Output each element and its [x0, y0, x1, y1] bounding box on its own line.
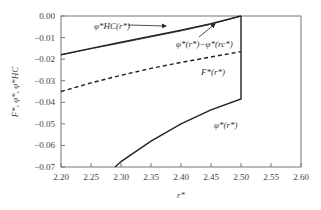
y-tick-label: −0.07	[34, 162, 55, 172]
x-tick-label: 2.25	[83, 172, 99, 182]
x-tick-label: 2.35	[143, 172, 159, 182]
y-tick-label: −0.06	[34, 140, 55, 150]
y-tick-label: −0.05	[34, 119, 55, 129]
x-axis-title: r*	[177, 190, 186, 200]
y-tick-label: −0.02	[34, 54, 55, 64]
y-tick-label: 0.00	[39, 11, 55, 21]
chart: 2.202.252.302.352.402.452.502.552.60 0.0…	[0, 0, 321, 210]
x-tick-label: 2.40	[173, 172, 189, 182]
y-tick-label: −0.01	[34, 33, 55, 43]
annotation-phi-hc: φ*HC(r*)	[94, 21, 130, 31]
y-tick-label: −0.04	[34, 97, 55, 107]
annotation-phi: φ*(r*)	[214, 120, 237, 130]
annotation-F: F*(r*)	[200, 67, 225, 77]
x-tick-label: 2.60	[293, 172, 309, 182]
y-axis-title: F*, φ*, φ*HC	[10, 66, 20, 118]
x-tick-label: 2.45	[203, 172, 219, 182]
x-tick-label: 2.30	[113, 172, 129, 182]
x-tick-label: 2.20	[53, 172, 69, 182]
annotation-phi-hc-arrow	[128, 25, 166, 26]
y-axis-ticks: 0.00−0.01−0.02−0.03−0.04−0.05−0.06−0.07	[34, 11, 65, 172]
annotation-phi-diff: φ*(r*)−φ*(rc*)	[176, 39, 233, 49]
x-tick-label: 2.50	[233, 172, 249, 182]
x-tick-label: 2.55	[263, 172, 279, 182]
y-tick-label: −0.03	[34, 76, 55, 86]
x-axis-ticks: 2.202.252.302.352.402.452.502.552.60	[53, 163, 309, 182]
